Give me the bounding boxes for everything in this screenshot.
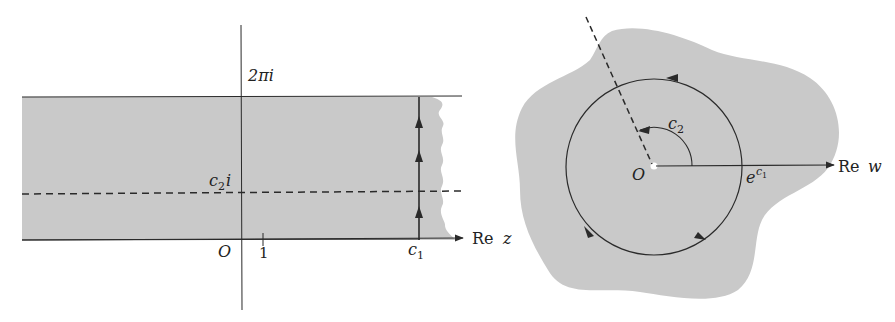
svg-text:Re: Re [838,157,860,176]
svg-text:1: 1 [417,249,424,262]
svg-text:z: z [502,229,512,248]
svg-text:c: c [408,240,417,259]
svg-text:1: 1 [762,171,767,180]
svg-text:i: i [226,171,231,190]
label-origin-w: O [632,165,645,184]
im-z-axis [241,25,242,310]
svg-text:2: 2 [218,180,225,193]
svg-text:Re: Re [472,229,494,248]
svg-text:2: 2 [677,123,684,136]
diagram-canvas: 2πi c 2 i O 1 c 1 Re z [0,0,895,322]
label-origin-z: O [218,242,231,261]
label-one: 1 [259,244,269,262]
w-plane-panel: c 2 O e c 1 Re w [515,17,882,299]
strip-region [22,97,456,240]
svg-text:c: c [209,171,218,190]
z-plane-panel: 2πi c 2 i O 1 c 1 Re z [22,25,512,310]
svg-text:w: w [868,157,882,176]
blob-region [515,28,839,299]
label-2pi-i: 2πi [247,66,274,85]
strip-top-boundary [22,96,462,97]
svg-text:e: e [746,168,755,187]
label-re-z: Re z [472,229,512,248]
label-c1: c 1 [408,240,424,262]
label-re-w: Re w [838,157,882,176]
svg-text:c: c [668,114,677,133]
